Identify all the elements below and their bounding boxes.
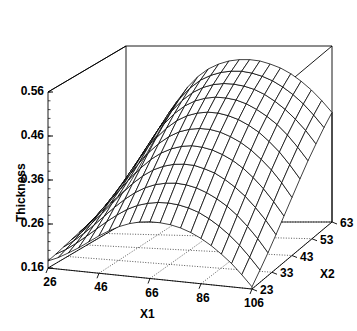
y-tick-label: 53: [320, 233, 333, 247]
y-axis-title: X2: [320, 267, 335, 281]
z-tick-label: 0.16: [21, 260, 44, 274]
x-tick-label: 46: [94, 280, 107, 294]
z-tick-label: 0.46: [21, 128, 44, 142]
x-tick-label: 86: [196, 291, 209, 305]
x-axis-title: X1: [140, 307, 155, 321]
y-tick-label: 23: [260, 283, 273, 297]
y-tick-label: 33: [280, 266, 293, 280]
x-tick-label: 66: [145, 286, 158, 300]
surface-plot-figure: Thickness X1 X2 0.160.260.360.460.562646…: [0, 0, 357, 331]
x-tick-label: 106: [244, 296, 264, 310]
y-tick-label: 43: [300, 250, 313, 264]
y-tick-label: 63: [340, 216, 353, 230]
z-tick-label: 0.36: [21, 172, 44, 186]
z-tick-label: 0.26: [21, 216, 44, 230]
z-tick-label: 0.56: [21, 84, 44, 98]
x-tick-label: 26: [43, 275, 56, 289]
surface-wireframe-mesh: [48, 60, 332, 287]
